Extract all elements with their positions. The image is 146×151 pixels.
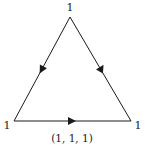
vertex-label-bottom-right: 1: [135, 119, 142, 132]
vertex-label-top: 1: [67, 1, 74, 14]
vertex-label-bottom-left: 1: [4, 119, 11, 132]
triangle-edges: [14, 17, 131, 121]
arrow-right-icon: [68, 117, 76, 125]
arrow-down-icon: [36, 64, 47, 75]
triangle-diagram: 1 1 1 (1, 1, 1): [0, 0, 146, 151]
diagram-caption: (1, 1, 1): [51, 132, 93, 144]
